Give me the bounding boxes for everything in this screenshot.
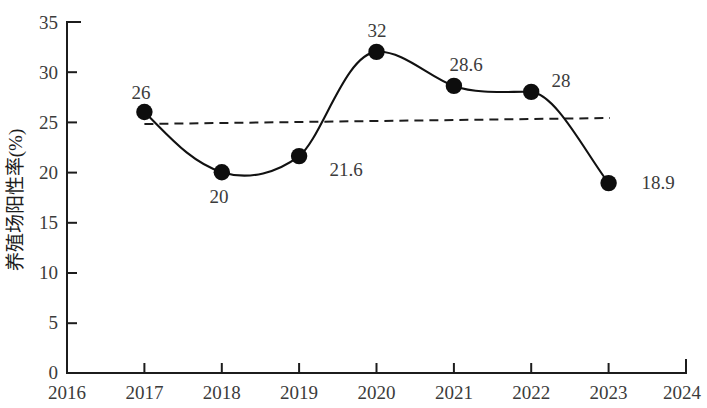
x-tick-marks <box>144 363 608 373</box>
x-tick-label: 2017 <box>125 382 163 403</box>
data-point-marker[interactable] <box>368 44 384 60</box>
data-point-marker[interactable] <box>136 104 152 120</box>
data-point-label: 28 <box>552 70 571 91</box>
data-point-label: 28.6 <box>449 54 482 75</box>
y-tick-label: 15 <box>39 212 58 233</box>
y-tick-marks <box>67 72 77 323</box>
data-point-marker[interactable] <box>600 175 616 191</box>
y-tick-label: 5 <box>49 312 59 333</box>
x-tick-label: 2019 <box>280 382 318 403</box>
data-point-label: 32 <box>368 20 387 41</box>
trend-line <box>144 118 610 124</box>
y-axis-tick-labels: 35 30 25 20 15 10 5 0 <box>39 12 58 383</box>
x-tick-label: 2022 <box>512 382 550 403</box>
y-axis-title: 养殖场阳性率(%) <box>5 129 27 271</box>
x-tick-label: 2020 <box>358 382 396 403</box>
data-point-label: 26 <box>132 82 151 103</box>
data-point-label: 18.9 <box>641 172 674 193</box>
x-tick-label: 2021 <box>435 382 473 403</box>
y-tick-label: 0 <box>49 362 59 383</box>
data-point-marker[interactable] <box>446 78 462 94</box>
x-axis-tick-labels: 2016 2017 2018 2019 2020 2021 2022 2023 … <box>48 382 702 403</box>
x-tick-label: 2023 <box>590 382 628 403</box>
data-point-marker[interactable] <box>523 84 539 100</box>
data-point-marker[interactable] <box>291 148 307 164</box>
y-axis-title-text: 养殖场阳性率(%) <box>5 129 27 271</box>
data-point-label: 20 <box>210 186 229 207</box>
data-point-markers <box>136 44 617 192</box>
y-tick-label: 20 <box>39 162 58 183</box>
y-tick-label: 10 <box>39 262 58 283</box>
x-tick-label: 2018 <box>203 382 241 403</box>
x-tick-label: 2024 <box>663 382 702 403</box>
series-line <box>144 52 608 183</box>
chart-canvas: 养殖场阳性率(%) 35 30 25 20 15 10 5 0 <box>0 0 707 408</box>
data-point-marker[interactable] <box>214 164 230 180</box>
line-chart-figure: 养殖场阳性率(%) 35 30 25 20 15 10 5 0 <box>0 0 707 408</box>
y-tick-label: 25 <box>39 112 58 133</box>
axis-frame <box>67 22 686 373</box>
y-tick-label: 35 <box>39 12 58 33</box>
data-point-labels: 26 20 21.6 32 28.6 28 18.9 <box>132 20 675 207</box>
data-point-label: 21.6 <box>329 159 362 180</box>
y-tick-label: 30 <box>39 62 58 83</box>
x-tick-label: 2016 <box>48 382 86 403</box>
